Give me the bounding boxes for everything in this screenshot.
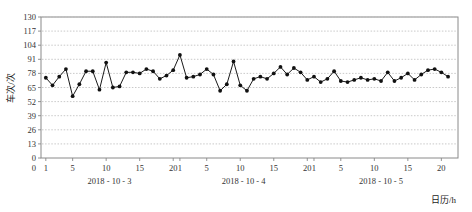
data-point [312, 75, 316, 79]
data-point [111, 86, 115, 90]
y-tick-label-0: 0 [32, 153, 36, 163]
data-point [77, 82, 81, 86]
data-point [399, 76, 403, 80]
y-tick-label-78: 78 [28, 68, 37, 78]
data-point [426, 68, 430, 72]
data-point [218, 89, 222, 93]
date-label-0: 2018 - 10 - 3 [88, 176, 132, 186]
y-tick-label-104: 104 [23, 40, 37, 50]
y-tick-label-130: 130 [23, 12, 36, 22]
x-tick-label-2-15: 15 [404, 163, 413, 173]
y-tick-label-117: 117 [24, 26, 36, 36]
data-point [245, 89, 249, 93]
data-point [151, 69, 155, 73]
data-point [352, 78, 356, 82]
chart-figure: 013263952657891104117130 151015201510152… [0, 0, 472, 212]
data-point [332, 69, 336, 73]
x-origin-label: 0 [32, 163, 36, 173]
data-point [64, 67, 68, 71]
data-point [232, 60, 236, 64]
data-point [413, 78, 417, 82]
x-tick-label-2-5: 5 [339, 163, 343, 173]
data-point [44, 76, 48, 80]
data-point [51, 83, 55, 87]
x-tick-label-1-5: 5 [205, 163, 209, 173]
y-tick-label-65: 65 [28, 83, 37, 93]
y-tick-label-39: 39 [28, 111, 37, 121]
data-point [138, 72, 142, 76]
data-point [386, 70, 390, 74]
data-point [205, 67, 209, 71]
x-tick-label-0-1: 1 [44, 163, 48, 173]
data-point [118, 85, 122, 89]
x-tick-label-1-1: 1 [178, 163, 182, 173]
data-point [393, 79, 397, 83]
data-point [171, 68, 175, 72]
data-point [165, 74, 169, 78]
data-point [285, 73, 289, 77]
data-point [84, 69, 88, 73]
y-tick-label-26: 26 [28, 125, 37, 135]
x-tick-label-2-1: 1 [312, 163, 316, 173]
data-point [191, 75, 195, 79]
x-tick-label-0-5: 5 [71, 163, 75, 173]
data-point [98, 88, 102, 92]
data-point [124, 70, 128, 74]
data-point [379, 79, 383, 83]
x-tick-label-0-15: 15 [135, 163, 144, 173]
date-label-1: 2018 - 10 - 4 [222, 176, 267, 186]
data-point [258, 75, 262, 79]
line-chart: 013263952657891104117130 151015201510152… [0, 0, 472, 212]
data-point [131, 70, 135, 74]
x-tick-label-1-20: 20 [303, 163, 312, 173]
x-tick-label-1-15: 15 [270, 163, 279, 173]
data-point [212, 73, 216, 77]
data-point [104, 61, 108, 65]
y-tick-label-13: 13 [28, 139, 37, 149]
data-point [198, 73, 202, 77]
x-axis-title: 日历/h [431, 195, 457, 205]
data-point [178, 53, 182, 57]
x-tick-label-1-10: 10 [236, 163, 245, 173]
data-point [346, 80, 350, 84]
data-point [238, 83, 242, 87]
data-point [372, 77, 376, 81]
y-tick-labels: 013263952657891104117130 [23, 12, 37, 163]
x-tick-label-0-20: 20 [169, 163, 178, 173]
data-point [272, 72, 276, 76]
y-tick-label-91: 91 [28, 54, 37, 64]
y-tick-label-52: 52 [28, 97, 37, 107]
data-point [406, 72, 410, 76]
data-point [299, 70, 303, 74]
data-point [71, 94, 75, 98]
data-point [446, 75, 450, 79]
x-tick-label-2-20: 20 [437, 163, 446, 173]
data-point [265, 77, 269, 81]
x-tick-label-2-10: 10 [370, 163, 379, 173]
data-point [366, 78, 370, 82]
data-point [158, 77, 162, 81]
data-point [57, 75, 61, 79]
data-point [359, 76, 363, 80]
data-point [326, 77, 330, 81]
data-point [433, 67, 437, 71]
data-point [292, 66, 296, 70]
x-tick-labels: 1510152015101520151015200 [32, 163, 446, 173]
data-point [252, 77, 256, 81]
data-point [279, 65, 283, 69]
x-group-date-labels: 2018 - 10 - 32018 - 10 - 42018 - 10 - 5 [88, 176, 403, 186]
data-point [339, 79, 343, 83]
data-point [225, 82, 229, 86]
date-label-2: 2018 - 10 - 5 [359, 176, 403, 186]
data-point [91, 69, 95, 73]
data-point [419, 73, 423, 77]
data-point [185, 76, 189, 80]
data-point [319, 80, 323, 84]
data-point [439, 70, 443, 74]
x-tick-label-0-10: 10 [102, 163, 111, 173]
data-point [144, 67, 148, 71]
data-point [305, 78, 309, 82]
y-axis-title: 车次/次 [5, 73, 16, 103]
